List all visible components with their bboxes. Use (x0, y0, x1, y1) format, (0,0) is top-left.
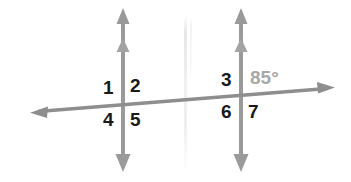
geometry-diagram: 1 2 4 5 3 6 7 85° (0, 0, 351, 182)
arrowhead-left-transversal (30, 107, 48, 118)
arrowhead-up-right-ghost (235, 38, 248, 52)
geometry-canvas (0, 0, 351, 182)
angle-label-4: 4 (103, 110, 114, 129)
angle-label-1: 1 (103, 78, 114, 97)
angle-label-3: 3 (221, 70, 232, 89)
arrowhead-right-transversal (317, 82, 335, 93)
vertical-line-left (116, 8, 131, 172)
arrowhead-down-right (234, 154, 249, 172)
arrowhead-up-right-primary (235, 8, 248, 24)
transversal-line (30, 82, 335, 118)
angle-label-6: 6 (221, 102, 232, 121)
angle-measure-85-degrees: 85° (250, 68, 279, 87)
vertical-line-right (234, 8, 249, 172)
transversal-shaft (38, 89, 327, 112)
arrowhead-up-left-ghost (117, 38, 130, 52)
angle-label-2: 2 (130, 76, 141, 95)
angle-label-5: 5 (130, 110, 141, 129)
angle-label-7: 7 (248, 102, 259, 121)
arrowhead-down-left (116, 154, 131, 172)
arrowhead-up-left-primary (117, 8, 130, 24)
